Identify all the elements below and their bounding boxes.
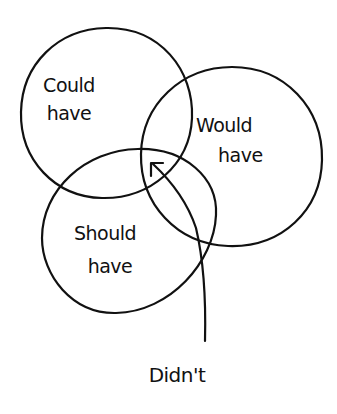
should-have-line2: have [60,255,150,277]
would-have-label: Would have [196,114,274,166]
would-have-line1: Would [196,114,274,136]
could-have-label: Could have [34,74,104,124]
venn-diagram [0,0,337,414]
didnt-arrow-line [153,164,205,341]
should-have-label: Should have [60,222,150,277]
didnt-label: Didn't [134,364,220,386]
could-have-line2: have [34,102,104,124]
should-have-line1: Should [60,222,150,244]
could-have-line1: Could [34,74,104,96]
would-have-line2: have [196,144,274,166]
